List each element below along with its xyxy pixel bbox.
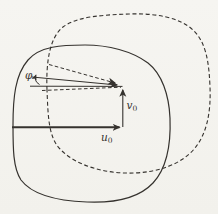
upper-dashed-wedge-line: [49, 65, 115, 84]
phi-angle-arc: [35, 75, 39, 84]
dashed-boundary-curve: [47, 14, 210, 173]
phi-label: φ: [25, 69, 33, 81]
solid-boundary-curve: [13, 45, 170, 202]
figure-diagram: φ v0 u0: [0, 0, 218, 214]
lower-dashed-wedge-line: [42, 87, 121, 90]
v0-label: v0: [127, 99, 138, 113]
upper-solid-wedge-line: [32, 77, 117, 85]
u0-label: u0: [101, 131, 113, 145]
wedge-lines: [30, 65, 123, 91]
figure-page: φ v0 u0: [0, 0, 218, 214]
